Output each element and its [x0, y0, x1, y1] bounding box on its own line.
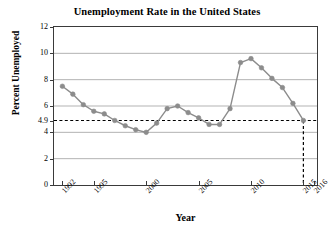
data-point[interactable] — [133, 127, 138, 132]
y-tick-label: 0 — [22, 180, 48, 189]
data-point[interactable] — [123, 123, 128, 128]
data-point[interactable] — [228, 106, 233, 111]
y-tick-mark — [50, 27, 53, 28]
chart-title: Unemployment Rate in the United States — [0, 6, 334, 17]
y-tick-mark — [50, 159, 53, 160]
y-tick-mark — [50, 53, 53, 54]
y-tick-mark — [50, 132, 53, 133]
data-point[interactable] — [291, 101, 296, 106]
data-point[interactable] — [238, 60, 243, 65]
data-line — [62, 59, 303, 133]
y-tick-mark — [50, 121, 53, 122]
y-tick-mark — [50, 106, 53, 107]
data-point[interactable] — [301, 118, 306, 123]
data-point[interactable] — [207, 122, 212, 127]
data-point[interactable] — [144, 130, 149, 135]
data-point[interactable] — [175, 104, 180, 109]
data-point[interactable] — [249, 56, 254, 61]
chart-svg — [54, 27, 317, 185]
data-point[interactable] — [81, 102, 86, 107]
data-point[interactable] — [259, 66, 264, 71]
data-point[interactable] — [217, 122, 222, 127]
data-point[interactable] — [165, 106, 170, 111]
x-axis-label: Year — [53, 212, 318, 223]
y-tick-label: 2 — [22, 154, 48, 163]
y-tick-label: 4.9 — [22, 116, 48, 125]
data-point[interactable] — [112, 118, 117, 123]
data-point[interactable] — [92, 109, 97, 114]
data-point[interactable] — [60, 84, 65, 89]
y-tick-label: 6 — [22, 101, 48, 110]
data-point[interactable] — [280, 85, 285, 90]
y-tick-label: 4 — [22, 127, 48, 136]
data-point[interactable] — [71, 92, 76, 97]
y-tick-mark — [50, 185, 53, 186]
y-tick-mark — [50, 80, 53, 81]
data-point[interactable] — [196, 116, 201, 121]
data-point[interactable] — [102, 112, 107, 117]
data-point[interactable] — [270, 76, 275, 81]
data-point[interactable] — [186, 110, 191, 115]
data-point[interactable] — [154, 121, 159, 126]
y-tick-label: 8 — [22, 75, 48, 84]
y-tick-label: 10 — [22, 48, 48, 57]
y-tick-label: 12 — [22, 22, 48, 31]
y-axis-label: Percent Unemployed — [11, 13, 21, 133]
plot-area — [53, 26, 318, 186]
chart-container: Unemployment Rate in the United States P… — [0, 0, 334, 232]
